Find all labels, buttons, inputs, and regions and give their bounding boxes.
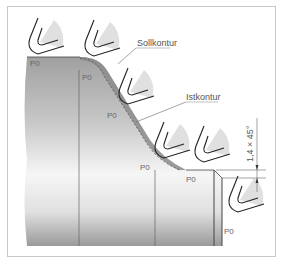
p0-label-5: P0 [186, 175, 196, 184]
leader-lines [118, 48, 218, 122]
ist-label: Istkontur [186, 92, 221, 102]
soll-label: Sollkontur [137, 38, 177, 48]
contour-diagram: Sollkontur Istkontur 1,4 × 45° P0 P0 P0 … [0, 0, 282, 261]
p0-label-2: P0 [82, 73, 92, 82]
p0-label-3: P0 [107, 111, 117, 120]
p0-label-4: P0 [140, 163, 150, 172]
workpiece [25, 57, 223, 246]
tool-5 [195, 126, 230, 162]
tool-1 [29, 18, 64, 54]
p0-label-6: P0 [224, 227, 234, 236]
p0-label-1: P0 [30, 59, 40, 68]
dimension-label: 1,4 × 45° [245, 125, 255, 162]
tool-6 [229, 176, 264, 212]
tool-2 [85, 20, 120, 56]
chamfer-dimension [216, 118, 266, 192]
